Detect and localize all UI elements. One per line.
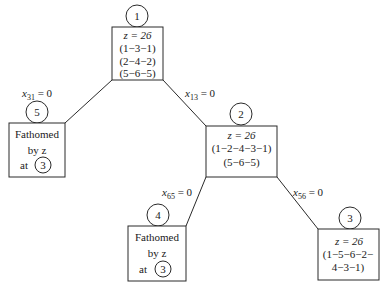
node-status: Fathomed [15, 128, 59, 140]
node-status: at [20, 159, 28, 171]
node-4: 4 Fathomed by z at 3 [128, 204, 186, 281]
node-3: 3 z = 26 (1−5−6−2− 4−3−1) [318, 207, 379, 280]
node-subtour: (5−6−5) [119, 67, 156, 80]
node-2: 2 z = 26 (1−2−4−3−1) (5−6−5) [206, 103, 277, 177]
node-status: Fathomed [135, 231, 179, 243]
node-number: 5 [34, 106, 40, 118]
node-objective: z = 26 [226, 129, 256, 141]
edge-label-x31: x31 = 0 [21, 87, 53, 102]
node-number: 4 [155, 209, 161, 221]
edge-2-3 [277, 177, 318, 229]
node-number: 2 [238, 108, 244, 120]
node-number: 3 [347, 212, 353, 224]
edge-label-x56: x56 = 0 [292, 186, 324, 201]
node-subtour: (5−6−5) [223, 156, 260, 169]
node-5: 5 Fathomed by z at 3 [9, 101, 65, 177]
ref-node-number: 3 [160, 263, 166, 275]
branch-and-bound-tree: x31 = 0 x13 = 0 x65 = 0 x56 = 0 1 z = 26… [0, 0, 389, 291]
node-subtour: (1−3−1) [119, 42, 156, 55]
ref-node-number: 3 [40, 159, 46, 171]
node-subtour: (1−2−4−3−1) [212, 142, 272, 155]
node-status: by z [148, 247, 167, 259]
edge-1-5 [65, 80, 112, 123]
edge-label-x13: x13 = 0 [184, 87, 216, 102]
node-subtour: 4−3−1) [332, 261, 365, 274]
node-subtour: (1−5−6−2− [323, 248, 373, 261]
edge-label-x65: x65 = 0 [161, 186, 193, 201]
node-objective: z = 26 [334, 235, 364, 247]
node-number: 1 [134, 10, 140, 22]
edge-2-4 [186, 177, 206, 226]
node-status: at [139, 263, 147, 275]
node-status: by z [28, 144, 47, 156]
node-1: 1 z = 26 (1−3−1) (2−4−2) (5−6−5) [112, 5, 163, 80]
node-objective: z = 26 [122, 29, 152, 41]
